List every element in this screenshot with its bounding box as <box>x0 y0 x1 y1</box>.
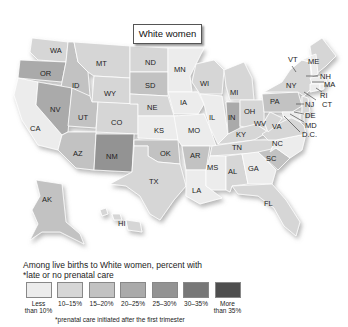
label-vt: VT <box>288 55 298 64</box>
label-al: AL <box>228 167 237 176</box>
label-wv: WV <box>254 119 266 128</box>
label-wy: WY <box>104 89 116 98</box>
legend-item-5: 30–35% <box>181 282 212 314</box>
label-nv: NV <box>50 105 60 114</box>
label-hi: HI <box>118 219 126 228</box>
label-ky: KY <box>236 130 246 139</box>
legend-label: Lessthan 10% <box>23 300 54 314</box>
label-me: ME <box>308 57 319 66</box>
state-ny[interactable] <box>264 60 312 96</box>
state-mi[interactable] <box>224 62 254 100</box>
label-wa: WA <box>50 46 62 55</box>
label-ak: AK <box>42 195 52 204</box>
label-dc: D.C. <box>302 130 317 139</box>
legend: Lessthan 10% 10–15% 15–20% 20–25% 25–30%… <box>23 282 244 314</box>
state-wi[interactable] <box>192 60 224 94</box>
label-ri: RI <box>320 91 328 100</box>
caption-line-2: *late or no prenatal care <box>23 270 202 280</box>
label-tn: TN <box>232 143 242 152</box>
map-title: White women <box>133 24 202 44</box>
legend-label: 25–30% <box>149 300 180 307</box>
legend-swatch <box>57 282 83 298</box>
legend-item-0: Lessthan 10% <box>23 282 54 314</box>
label-mo: MO <box>188 126 200 135</box>
label-or: OR <box>40 69 52 78</box>
legend-item-2: 15–20% <box>86 282 117 314</box>
label-in: IN <box>228 113 236 122</box>
caption-line-1: Among live births to White women, percen… <box>23 260 202 270</box>
label-nd: ND <box>145 58 156 67</box>
label-ny: NY <box>286 81 296 90</box>
legend-item-4: 25–30% <box>149 282 180 314</box>
legend-swatch <box>120 282 146 298</box>
state-ak[interactable] <box>30 180 84 244</box>
state-hi-1[interactable] <box>100 208 108 216</box>
label-sc: SC <box>266 154 277 163</box>
label-il: IL <box>209 113 215 122</box>
label-va: VA <box>272 122 281 131</box>
legend-caption: Among live births to White women, percen… <box>23 260 202 280</box>
label-ut: UT <box>78 113 88 122</box>
label-nc: NC <box>272 139 283 148</box>
label-mi: MI <box>230 88 238 97</box>
legend-label: 30–35% <box>181 300 212 307</box>
label-az: AZ <box>73 149 83 158</box>
label-ca: CA <box>30 124 40 133</box>
label-sd: SD <box>145 81 156 90</box>
label-de: DE <box>305 111 315 120</box>
label-ok: OK <box>160 149 171 158</box>
label-la: LA <box>192 186 201 195</box>
label-co: CO <box>111 118 122 127</box>
label-ar: AR <box>190 151 201 160</box>
legend-swatch <box>89 282 115 298</box>
legend-swatch <box>152 282 178 298</box>
footnote: *prenatal care initiated after the first… <box>55 316 185 323</box>
state-ms[interactable] <box>206 156 226 190</box>
legend-swatch <box>26 282 52 298</box>
label-mt: MT <box>96 59 107 68</box>
legend-label: Morethan 35% <box>212 300 243 314</box>
label-nj: NJ <box>305 100 314 109</box>
label-md: MD <box>305 121 317 130</box>
label-oh: OH <box>244 107 255 116</box>
label-id: ID <box>72 81 80 90</box>
label-ks: KS <box>154 126 164 135</box>
label-wi: WI <box>200 79 209 88</box>
label-tx: TX <box>149 177 159 186</box>
legend-item-1: 10–15% <box>55 282 86 314</box>
label-nm: NM <box>106 152 118 161</box>
legend-label: 15–20% <box>86 300 117 307</box>
label-pa: PA <box>270 97 279 106</box>
legend-swatch <box>183 282 209 298</box>
label-ga: GA <box>248 164 259 173</box>
label-ct: CT <box>322 100 332 109</box>
legend-label: 10–15% <box>55 300 86 307</box>
label-fl: FL <box>264 199 273 208</box>
legend-item-6: Morethan 35% <box>212 282 243 314</box>
label-mn: MN <box>174 65 186 74</box>
label-ms: MS <box>207 163 218 172</box>
state-ct[interactable] <box>310 84 320 92</box>
legend-item-3: 20–25% <box>118 282 149 314</box>
label-ia: IA <box>180 98 187 107</box>
state-wa[interactable] <box>30 38 68 62</box>
state-pa[interactable] <box>262 92 302 112</box>
label-ne: NE <box>147 103 157 112</box>
legend-label: 20–25% <box>118 300 149 307</box>
legend-swatch <box>215 282 241 298</box>
state-hi-3[interactable] <box>126 220 142 232</box>
state-fl[interactable] <box>232 184 300 236</box>
label-ma: MA <box>324 80 335 89</box>
